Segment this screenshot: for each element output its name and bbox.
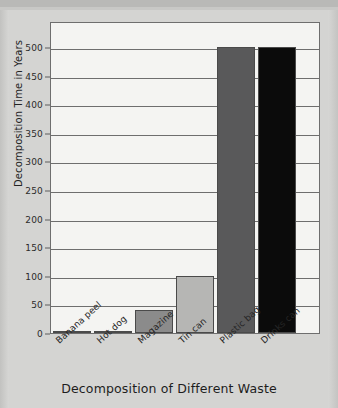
y-axis-tick-mark <box>45 48 50 49</box>
y-axis-tick-label: 500 <box>25 43 43 53</box>
y-axis-title: Decomposition Time in Years <box>13 34 24 194</box>
y-axis-tick-label: 300 <box>25 157 43 167</box>
y-axis-tick-label: 0 <box>37 329 43 339</box>
scan-edge-right <box>328 10 338 408</box>
y-axis: 050100150200250300350400450500 <box>0 22 50 334</box>
y-axis-tick-label: 100 <box>25 272 43 282</box>
y-axis-tick-mark <box>45 276 50 277</box>
scan-edge-top <box>0 0 338 7</box>
y-axis-tick-mark <box>45 305 50 306</box>
bar-plastic-bag <box>217 47 255 333</box>
y-axis-tick-label: 200 <box>25 215 43 225</box>
y-axis-tick-label: 350 <box>25 129 43 139</box>
y-axis-tick-mark <box>45 191 50 192</box>
bar-slot <box>258 23 296 333</box>
bar-slot <box>53 23 91 333</box>
bar-slot <box>176 23 214 333</box>
y-axis-tick-label: 50 <box>31 300 43 310</box>
y-axis-tick-mark <box>45 76 50 77</box>
y-axis-tick-mark <box>45 219 50 220</box>
y-axis-tick-mark <box>45 162 50 163</box>
bar-slot <box>94 23 132 333</box>
y-axis-tick-mark <box>45 248 50 249</box>
y-axis-tick-label: 450 <box>25 72 43 82</box>
bar-series <box>51 23 319 333</box>
y-axis-tick-mark <box>45 133 50 134</box>
scan-edge-top-secondary <box>0 7 338 10</box>
bar-slot <box>135 23 173 333</box>
bar-slot <box>217 23 255 333</box>
y-axis-tick-label: 400 <box>25 100 43 110</box>
y-axis-tick-mark <box>45 105 50 106</box>
chart-figure: 050100150200250300350400450500 Decomposi… <box>0 0 338 408</box>
x-axis: Banana peelHot dogMagazineTin canPlastic… <box>50 334 320 380</box>
bar-drinks-can <box>258 47 296 333</box>
y-axis-tick-label: 250 <box>25 186 43 196</box>
plot-area <box>50 22 320 334</box>
x-axis-title: Decomposition of Different Waste <box>0 381 338 396</box>
y-axis-tick-label: 150 <box>25 243 43 253</box>
